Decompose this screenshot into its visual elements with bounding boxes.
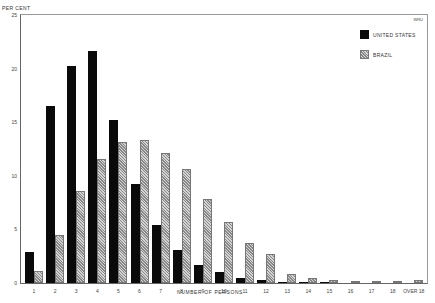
bar-united-states-15 (320, 282, 329, 283)
x-tick-label: 16 (341, 288, 361, 294)
bar-brazil-1 (34, 271, 43, 283)
bar-brazil-16 (351, 281, 360, 283)
bar-united-states-11 (236, 278, 245, 283)
bar-united-states-9 (194, 265, 203, 283)
bar-brazil-17 (372, 281, 381, 283)
bar-united-states-2 (46, 106, 55, 283)
y-tick-label: 0 (0, 280, 17, 286)
x-axis-title: NUMBER OF PERSONS (177, 289, 243, 295)
legend-label-united-states: UNITED STATES (373, 32, 416, 38)
x-tick-label: 3 (66, 288, 86, 294)
bar-united-states-8 (173, 250, 182, 283)
y-tick-label: 10 (0, 173, 17, 179)
bar-united-states-5 (109, 120, 118, 283)
legend-item-united-states: UNITED STATES (360, 30, 416, 39)
legend-label-brazil: BRAZIL (373, 52, 392, 58)
bar-brazil-7 (161, 153, 170, 283)
bar-united-states-3 (67, 66, 76, 283)
y-tick-label: 20 (0, 66, 17, 72)
bar-brazil-6 (140, 140, 149, 283)
bar-brazil-15 (329, 280, 338, 283)
bar-united-states-7 (152, 225, 161, 283)
bar-brazil-3 (76, 191, 85, 283)
bar-brazil-5 (118, 142, 127, 284)
bar-brazil-2 (55, 235, 64, 283)
bar-brazil-18 (393, 281, 402, 283)
y-axis-title: PER CENT (2, 5, 30, 11)
legend-swatch-brazil (360, 50, 369, 59)
bar-united-states-4 (88, 51, 97, 283)
bar-united-states-10 (215, 272, 224, 283)
bar-brazil-13 (287, 274, 296, 283)
x-tick-label: 1 (24, 288, 44, 294)
bar-brazil-over-18 (414, 280, 423, 283)
legend-item-brazil: BRAZIL (360, 50, 392, 59)
bar-brazil-14 (308, 278, 317, 283)
bar-brazil-12 (266, 254, 275, 283)
y-tick-label: 15 (0, 119, 17, 125)
bar-united-states-6 (131, 184, 140, 283)
x-tick-label: 6 (130, 288, 150, 294)
bar-united-states-13 (278, 282, 287, 283)
x-tick-label: 2 (45, 288, 65, 294)
y-tick-label: 25 (0, 12, 17, 18)
bar-united-states-12 (257, 280, 266, 283)
x-tick-label: 4 (87, 288, 107, 294)
x-tick-label: 7 (151, 288, 171, 294)
x-tick-label: 17 (362, 288, 382, 294)
bar-brazil-8 (182, 169, 191, 283)
x-tick-label: 12 (256, 288, 276, 294)
x-tick-label: 15 (319, 288, 339, 294)
bar-brazil-11 (245, 243, 254, 283)
x-tick-label: OVER 18 (400, 288, 428, 294)
bar-brazil-4 (97, 159, 106, 283)
bar-brazil-10 (224, 222, 233, 283)
legend-swatch-united-states (360, 30, 369, 39)
bar-brazil-9 (203, 199, 212, 283)
x-tick-label: 13 (277, 288, 297, 294)
x-tick-label: 14 (298, 288, 318, 294)
x-tick-label: 5 (108, 288, 128, 294)
y-tick-label: 5 (0, 226, 17, 232)
bar-united-states-1 (25, 252, 34, 283)
bar-united-states-14 (299, 282, 308, 283)
